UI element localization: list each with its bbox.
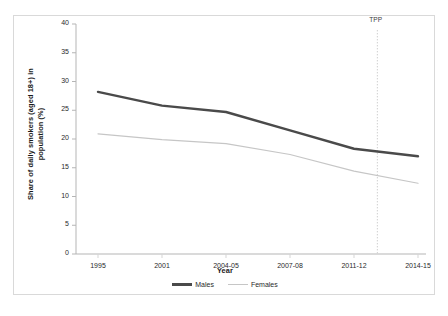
y-tick-label: 5 xyxy=(39,220,69,227)
y-tick-label: 35 xyxy=(39,48,69,55)
tpp-annotation-label: TPP xyxy=(369,16,382,23)
x-tick-label: 2014-15 xyxy=(388,262,448,269)
y-tick-marks xyxy=(72,24,76,254)
y-tick-label: 30 xyxy=(39,77,69,84)
cropped-caption-remnant xyxy=(0,0,448,12)
series-line-males xyxy=(98,92,418,156)
series-line-females xyxy=(98,134,418,183)
legend-swatch-males xyxy=(172,283,192,285)
x-tick-label: 1995 xyxy=(68,262,128,269)
x-tick-label: 2007-08 xyxy=(260,262,320,269)
legend-label-males: Males xyxy=(195,281,214,288)
y-tick-label: 10 xyxy=(39,192,69,199)
x-tick-marks xyxy=(98,254,418,258)
x-tick-label: 2004-05 xyxy=(196,262,256,269)
y-tick-label: 40 xyxy=(39,19,69,26)
legend-swatch-females xyxy=(228,284,248,285)
chart-container: Share of daily smokers (aged 18+) in pop… xyxy=(13,15,435,295)
legend-item-females: Females xyxy=(228,281,278,288)
x-tick-label: 2011-12 xyxy=(324,262,384,269)
chart-legend: Males Females xyxy=(14,281,436,288)
y-tick-label: 15 xyxy=(39,163,69,170)
y-tick-label: 0 xyxy=(39,249,69,256)
y-tick-label: 20 xyxy=(39,134,69,141)
line-chart-plot xyxy=(14,16,434,294)
legend-item-males: Males xyxy=(172,281,214,288)
x-tick-label: 2001 xyxy=(132,262,192,269)
y-tick-label: 25 xyxy=(39,105,69,112)
legend-label-females: Females xyxy=(251,281,278,288)
